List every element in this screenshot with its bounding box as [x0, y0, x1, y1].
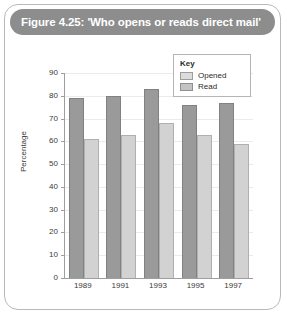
x-axis-labels: 19891991199319951997	[64, 281, 252, 290]
bar-group	[144, 73, 174, 278]
legend-swatch-opened-icon	[180, 72, 193, 80]
bar-group	[106, 73, 136, 278]
y-axis-tick-label: 40	[49, 181, 58, 192]
bar-read-1993	[144, 89, 159, 278]
y-axis-tick: 0	[31, 278, 65, 279]
y-axis-tick-label: 80	[49, 90, 58, 101]
y-axis-tick-label: 70	[49, 113, 58, 124]
y-axis-tick: 80	[31, 96, 65, 97]
bar-opened-1995	[197, 135, 212, 279]
x-axis-tick-label: 1991	[104, 281, 136, 290]
bar-group	[182, 73, 212, 278]
y-axis-tick-label: 60	[49, 135, 58, 146]
bar-group	[219, 73, 249, 278]
y-axis-tick-label: 10	[49, 249, 58, 260]
y-axis-tick: 10	[31, 255, 65, 256]
bar-opened-1993	[159, 123, 174, 278]
figure-frame: Figure 4.25: 'Who opens or reads direct …	[4, 4, 281, 310]
bar-opened-1997	[234, 144, 249, 278]
x-axis-tick-label: 1993	[142, 281, 174, 290]
y-axis-tick: 40	[31, 187, 65, 188]
y-axis-tick: 20	[31, 232, 65, 233]
page-title: Figure 4.25: 'Who opens or reads direct …	[21, 16, 261, 28]
bar-read-1995	[182, 105, 197, 278]
x-axis-tick-label: 1997	[217, 281, 249, 290]
bar-read-1997	[219, 103, 234, 278]
figure-title-bar: Figure 4.25: 'Who opens or reads direct …	[10, 9, 275, 35]
legend: Key Opened Read	[173, 54, 251, 97]
y-axis-tick: 30	[31, 210, 65, 211]
bars-layer	[65, 73, 253, 278]
bar-opened-1991	[121, 135, 136, 279]
y-axis-tick-label: 20	[49, 226, 58, 237]
chart-container: Percentage 0102030405060708090 198919911…	[5, 35, 280, 310]
x-axis-tick-label: 1995	[180, 281, 212, 290]
legend-item-opened: Opened	[180, 71, 244, 80]
bar-group	[69, 73, 99, 278]
y-axis-tick: 50	[31, 164, 65, 165]
y-axis-label: Percentage	[19, 117, 28, 187]
legend-swatch-read-icon	[180, 83, 193, 91]
legend-label-opened: Opened	[198, 71, 226, 80]
y-axis-tick-label: 0	[54, 272, 58, 283]
x-axis-tick-label: 1989	[67, 281, 99, 290]
legend-item-read: Read	[180, 82, 244, 91]
bar-opened-1989	[84, 139, 99, 278]
bar-read-1991	[106, 96, 121, 278]
bar-read-1989	[69, 98, 84, 278]
legend-label-read: Read	[198, 82, 217, 91]
y-axis-tick-label: 30	[49, 204, 58, 215]
y-axis-tick-mark	[61, 278, 65, 279]
y-axis-tick-label: 50	[49, 158, 58, 169]
y-axis-tick: 60	[31, 141, 65, 142]
y-axis-tick: 90	[31, 73, 65, 74]
legend-title: Key	[180, 59, 244, 68]
y-axis-tick-label: 90	[49, 67, 58, 78]
y-axis-tick: 70	[31, 119, 65, 120]
plot-area: 0102030405060708090	[64, 73, 253, 279]
